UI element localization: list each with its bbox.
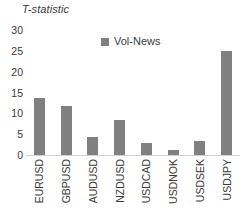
x-label-slot: NZDUSD (106, 157, 133, 218)
bar-chart: T-statistic 302520151050 Vol-News EURUSD… (0, 0, 245, 218)
x-label-slot: AUDUSD (80, 157, 107, 218)
x-axis-baseline (26, 155, 240, 156)
y-tick-label: 10 (1, 108, 23, 118)
x-tick-label-eurusd: EURUSD (34, 159, 45, 203)
y-axis-tick-labels: 302520151050 (0, 0, 23, 218)
bar-eurusd[interactable] (34, 98, 45, 155)
x-tick-label-gbpusd: GBPUSD (61, 159, 72, 203)
y-tick-label: 20 (1, 67, 23, 77)
x-tick-label-nzdusd: NZDUSD (114, 159, 125, 203)
y-tick-label: 0 (1, 150, 23, 160)
bar-slot (106, 30, 133, 155)
bar-series-vol-news (26, 30, 240, 155)
x-label-slot: EURUSD (26, 157, 53, 218)
bar-nzdusd[interactable] (114, 120, 125, 155)
bar-gbpusd[interactable] (61, 106, 72, 155)
bar-slot (133, 30, 160, 155)
y-tick-label: 5 (1, 129, 23, 139)
x-label-slot: USDCAD (133, 157, 160, 218)
x-label-slot: GBPUSD (53, 157, 80, 218)
bar-usdjpy[interactable] (221, 51, 232, 155)
x-tick-label-usdnok: USDNOK (168, 159, 179, 204)
x-label-slot: USDJPY (213, 157, 240, 218)
x-tick-label-audusd: AUDUSD (87, 159, 98, 203)
x-label-slot: USDSEK (187, 157, 214, 218)
bar-slot (26, 30, 53, 155)
y-tick-label: 15 (1, 88, 23, 98)
y-tick-label: 25 (1, 46, 23, 56)
y-tick-label: 30 (1, 25, 23, 35)
x-tick-label-usdcad: USDCAD (141, 159, 152, 203)
bar-slot (213, 30, 240, 155)
bar-slot (80, 30, 107, 155)
x-tick-label-usdsek: USDSEK (194, 159, 205, 202)
bar-usdsek[interactable] (194, 141, 205, 155)
y-axis-title: T-statistic (22, 3, 69, 15)
bar-slot (187, 30, 214, 155)
bar-slot (53, 30, 80, 155)
bar-slot (160, 30, 187, 155)
x-axis-category-labels: EURUSDGBPUSDAUDUSDNZDUSDUSDCADUSDNOKUSDS… (26, 157, 240, 218)
plot-area (26, 30, 240, 155)
bar-audusd[interactable] (87, 137, 98, 155)
bar-usdcad[interactable] (141, 143, 152, 155)
x-tick-label-usdjpy: USDJPY (221, 159, 232, 200)
x-label-slot: USDNOK (160, 157, 187, 218)
